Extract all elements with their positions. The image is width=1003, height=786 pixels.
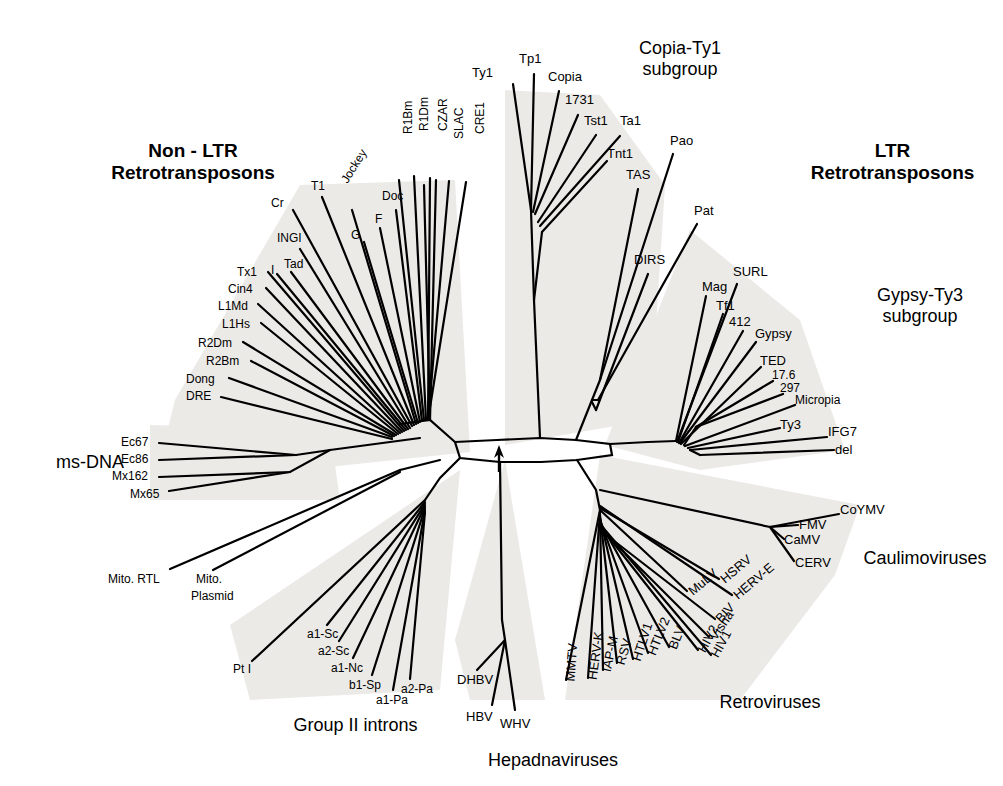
- root-arrow-icon: [494, 445, 504, 472]
- group-label-ms_dna: ms-DNA: [35, 452, 145, 473]
- taxon-label: R2Dm: [198, 337, 232, 349]
- taxon-label: Ec67: [121, 436, 148, 448]
- taxon-label: L1Md: [218, 300, 248, 312]
- taxon-label: R1Bm: [402, 101, 414, 134]
- taxon-label: SLAC: [453, 108, 465, 139]
- group-label-line2: subgroup: [600, 59, 760, 80]
- taxon-label: Tp1: [519, 52, 541, 65]
- taxon-label: Tx1: [237, 266, 257, 278]
- taxon-label: CaMV: [784, 533, 820, 546]
- taxon-label: a1-Nc: [331, 662, 363, 674]
- taxon-label: Gypsy: [755, 327, 792, 340]
- taxon-label: INGI: [277, 232, 302, 244]
- taxon-label: HBV: [466, 710, 493, 723]
- taxon-label: CERV: [795, 556, 831, 569]
- taxon-label: 17.6: [772, 369, 795, 381]
- taxon-label: a1-Pa: [376, 694, 408, 706]
- taxon-label: F: [375, 213, 382, 225]
- taxon-label: CRE1: [474, 102, 486, 134]
- taxon-label: SURL: [733, 265, 768, 278]
- taxon-label: Copia: [548, 70, 582, 83]
- taxon-label: WHV: [500, 717, 530, 730]
- taxon-label: IFG7: [828, 425, 857, 438]
- taxon-label: Ty3: [780, 418, 801, 431]
- taxon-label: FMV: [799, 518, 826, 531]
- taxon-label: b1-Sp: [349, 679, 381, 691]
- group-label-line1: ms-DNA: [35, 452, 145, 473]
- group-label-line1: Non - LTR: [88, 140, 298, 162]
- group-label-line1: LTR: [790, 140, 995, 162]
- group-label-copia_ty1: Copia-Ty1subgroup: [600, 38, 760, 79]
- group-label-line1: Hepadnaviruses: [468, 750, 638, 771]
- taxon-label: DRE: [186, 390, 211, 402]
- taxon-label: T1: [311, 180, 325, 192]
- group-label-line1: Gypsy-Ty3: [845, 285, 995, 306]
- taxon-label: CoYMV: [840, 503, 885, 516]
- taxon-label: Plasmid: [191, 590, 234, 602]
- phylogenetic-tree-svg: [0, 0, 1003, 786]
- taxon-label: 1731: [565, 93, 594, 106]
- taxon-label: R2Bm: [206, 355, 239, 367]
- taxon-label: R1Dm: [418, 97, 430, 131]
- taxon-label: TED: [760, 354, 786, 367]
- taxon-label: Tst1: [584, 114, 608, 127]
- taxon-label: Cin4: [228, 283, 253, 295]
- group-label-line2: Retrotransposons: [88, 162, 298, 184]
- taxon-label: Pt I: [233, 663, 251, 675]
- figure-canvas: Ty1Tp1Copia1731Tst1Ta1Tnt1TASPaoPatDIRSM…: [0, 0, 1003, 786]
- group-label-ltr: LTRRetrotransposons: [790, 140, 995, 184]
- taxon-label: L1Hs: [222, 318, 250, 330]
- group-label-line1: Retroviruses: [700, 692, 840, 713]
- taxon-label: DIRS: [634, 253, 665, 266]
- taxon-label: Ta1: [620, 114, 641, 127]
- group-label-line1: Group II introns: [268, 715, 443, 736]
- taxon-label: DHBV: [457, 673, 493, 686]
- taxon-label: Mag: [702, 280, 727, 293]
- group-label-hepadnaviruses: Hepadnaviruses: [468, 750, 638, 771]
- group-label-line1: Caulimoviruses: [845, 548, 1003, 569]
- taxon-label: I: [271, 264, 274, 276]
- taxon-label: Tf1: [716, 299, 735, 312]
- group-label-line1: Copia-Ty1: [600, 38, 760, 59]
- taxon-label: G: [351, 229, 360, 241]
- group-label-gypsy_ty3: Gypsy-Ty3subgroup: [845, 285, 995, 326]
- taxon-label: Cr: [271, 197, 284, 209]
- group-label-line2: Retrotransposons: [790, 162, 995, 184]
- group-label-group_ii: Group II introns: [268, 715, 443, 736]
- taxon-label: Dong: [186, 373, 215, 385]
- taxon-label: Mito.: [196, 573, 222, 585]
- taxon-label: 412: [729, 315, 751, 328]
- taxon-label: Pat: [694, 204, 714, 217]
- taxon-label: Ty1: [472, 66, 493, 79]
- group-label-line2: subgroup: [845, 306, 995, 327]
- group-label-non_ltr: Non - LTRRetrotransposons: [88, 140, 298, 184]
- taxon-label: Mito. RTL: [108, 573, 160, 585]
- taxon-label: CZAR: [437, 98, 449, 131]
- taxon-label: Tnt1: [607, 147, 633, 160]
- taxon-label: a1-Sc: [307, 628, 338, 640]
- taxon-label: Micropia: [795, 394, 840, 406]
- taxon-label: Tad: [284, 258, 303, 270]
- group-label-caulimoviruses: Caulimoviruses: [845, 548, 1003, 569]
- taxon-label: Pao: [670, 134, 693, 147]
- taxon-label: Mx65: [130, 488, 159, 500]
- taxon-label: MMTV: [564, 643, 580, 682]
- taxon-label: Doc: [382, 190, 403, 202]
- taxon-label: TAS: [626, 168, 650, 181]
- taxon-label: del: [835, 443, 852, 456]
- taxon-label: a2-Sc: [318, 645, 349, 657]
- group-label-retroviruses: Retroviruses: [700, 692, 840, 713]
